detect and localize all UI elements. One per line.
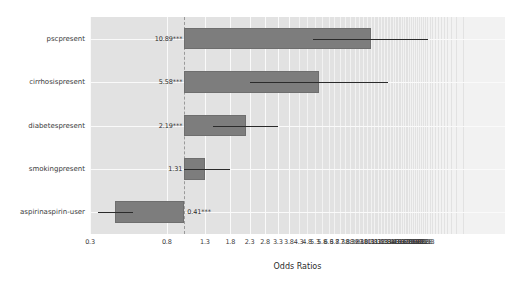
horizontal-gridline	[90, 126, 505, 127]
confidence-interval-bar	[184, 169, 230, 170]
x-axis-tick-labels: 0.30.81.31.82.32.83.33.84.34.85.35.86.36…	[90, 238, 505, 252]
x-axis-tick-label: 1.8	[225, 238, 235, 246]
x-axis-tick-label: 1.3	[200, 238, 210, 246]
y-axis-label: smokingpresent	[29, 165, 85, 173]
y-axis-label: aspirinaspirin-user	[20, 208, 85, 216]
x-axis-tick-label: 0.8	[162, 238, 172, 246]
plot-panel: 10.89***5.58***2.19***1.310.41***	[90, 17, 505, 234]
y-axis-label: pscpresent	[46, 35, 85, 43]
estimate-label: 1.31	[168, 165, 182, 173]
estimate-label: 0.41***	[187, 208, 211, 216]
y-axis-label: diabetespresent	[28, 122, 85, 130]
x-axis-tick-label: 2.8	[260, 238, 270, 246]
y-axis-labels: pscpresentcirrhosispresentdiabetespresen…	[0, 17, 85, 234]
x-axis-tick-label: 3.3	[273, 238, 283, 246]
x-axis-tick-label: 22.3	[421, 238, 435, 246]
odds-ratio-forest-plot: pscpresentcirrhosispresentdiabetespresen…	[0, 0, 527, 288]
confidence-interval-bar	[213, 126, 277, 127]
confidence-interval-bar	[98, 212, 134, 213]
x-axis-tick-label: 0.3	[85, 238, 95, 246]
confidence-interval-bar	[313, 39, 428, 40]
x-axis-tick-label: 2.3	[245, 238, 255, 246]
estimate-label: 5.58***	[159, 78, 183, 86]
x-axis-title: Odds Ratios	[90, 262, 505, 271]
confidence-interval-bar	[250, 82, 389, 83]
x-axis-tick-label: 3.8	[284, 238, 294, 246]
estimate-label: 10.89***	[155, 35, 183, 43]
horizontal-gridline	[90, 169, 505, 170]
estimate-label: 2.19***	[159, 122, 183, 130]
y-axis-label: cirrhosispresent	[29, 78, 85, 86]
